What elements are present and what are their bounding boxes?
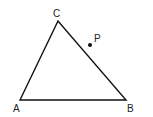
triangle-abc bbox=[20, 21, 126, 100]
point-p-dot bbox=[88, 43, 92, 47]
vertex-label-a: A bbox=[13, 103, 20, 114]
vertex-label-b: B bbox=[127, 103, 134, 114]
vertex-label-c: C bbox=[53, 8, 60, 19]
triangle-diagram: C A B P bbox=[0, 0, 153, 117]
point-label-p: P bbox=[94, 33, 101, 44]
